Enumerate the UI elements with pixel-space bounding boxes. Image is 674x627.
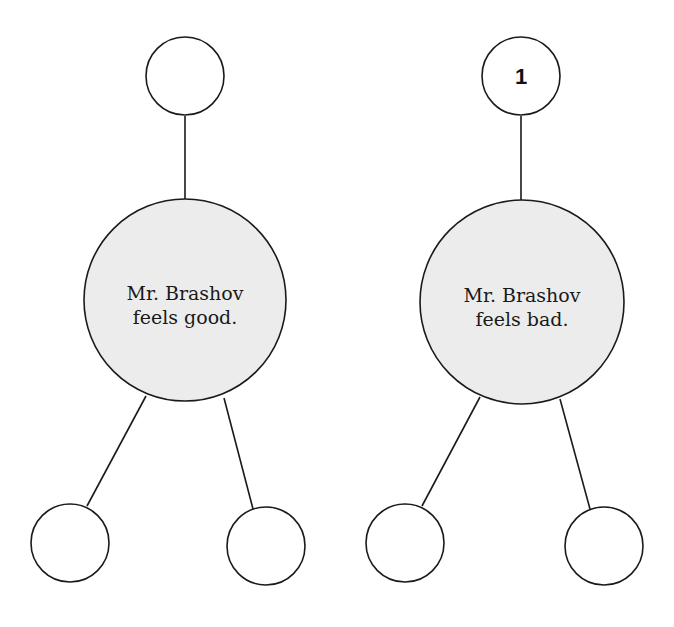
center-node-line2: feels good.	[133, 306, 238, 328]
center-node-line1: Mr. Brashov	[463, 284, 580, 306]
bottom-left-node[interactable]	[31, 504, 109, 582]
bottom-right-node[interactable]	[227, 507, 305, 585]
edge-bottom-right	[224, 398, 253, 509]
edge-bottom-right	[560, 399, 590, 509]
web-diagram-good: Mr. Brashov feels good.	[31, 37, 305, 585]
edge-bottom-left	[422, 397, 480, 506]
center-node-line2: feels bad.	[475, 308, 568, 330]
web-diagram-bad: 1 Mr. Brashov feels bad.	[366, 37, 643, 585]
edge-bottom-left	[87, 396, 146, 506]
bottom-right-node[interactable]	[565, 507, 643, 585]
top-node[interactable]	[146, 37, 224, 115]
diagram-canvas: Mr. Brashov feels good. 1 Mr. Brashov fe…	[0, 0, 674, 627]
top-node-label: 1	[515, 64, 527, 89]
bottom-left-node[interactable]	[366, 504, 444, 582]
center-node-line1: Mr. Brashov	[126, 282, 243, 304]
